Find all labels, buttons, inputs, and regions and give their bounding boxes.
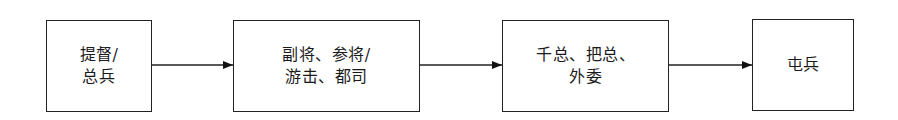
node-tunbing: 屯兵 xyxy=(752,19,854,111)
node-qianzong-bazong: 千总、把总、 外委 xyxy=(502,20,669,112)
node-label: 提督/ 总兵 xyxy=(80,44,119,88)
node-label: 副将、参将/ 游击、都司 xyxy=(282,44,370,88)
node-label: 屯兵 xyxy=(787,54,820,76)
node-tidu-zongbing: 提督/ 总兵 xyxy=(46,20,152,112)
node-label: 千总、把总、 外委 xyxy=(536,44,635,88)
node-fujiang-canjiang: 副将、参将/ 游击、都司 xyxy=(233,20,420,112)
